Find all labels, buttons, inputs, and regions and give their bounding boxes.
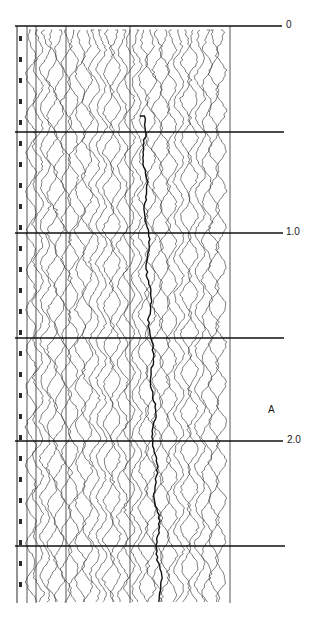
time-label-2-0: 2.0 — [287, 435, 301, 445]
reflector-label-a: A — [268, 405, 275, 415]
time-label-1-0: 1.0 — [286, 227, 300, 237]
seismic-record-figure — [0, 0, 318, 619]
time-label-0: 0 — [286, 20, 292, 30]
